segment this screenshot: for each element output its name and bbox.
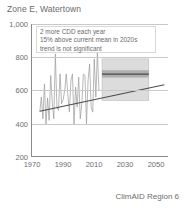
gridline-800 bbox=[32, 57, 168, 58]
y-axis-label-600: 600 bbox=[2, 86, 28, 95]
source-note: ClimAID Region 6 bbox=[115, 192, 179, 201]
annotation-line-3: trend is not significant bbox=[40, 45, 153, 53]
x-axis-label-1990: 1990 bbox=[48, 160, 78, 169]
projection-box-group bbox=[102, 59, 149, 101]
annotation-line-1: 2 more CDD each year bbox=[40, 28, 153, 36]
annotation-box: 2 more CDD each year 15% above current m… bbox=[36, 26, 156, 53]
x-axis-label-2010: 2010 bbox=[79, 160, 109, 169]
chart-title: Zone E, Watertown bbox=[7, 4, 81, 14]
annotation-line-2: 15% above current mean in 2020s bbox=[40, 36, 153, 44]
chart-container: Zone E, Watertown 1,000 800 600 400 200 … bbox=[0, 0, 187, 208]
observed-cdd-series bbox=[40, 52, 99, 124]
x-axis-label-2030: 2030 bbox=[110, 160, 140, 169]
gridline-600 bbox=[32, 90, 168, 91]
x-axis-label-2050: 2050 bbox=[141, 160, 171, 169]
projection-outer-band bbox=[102, 59, 149, 101]
y-axis-label-800: 800 bbox=[2, 53, 28, 62]
gridline-400 bbox=[32, 124, 168, 125]
y-axis-label-1000: 1,000 bbox=[2, 20, 28, 29]
y-axis-label-400: 400 bbox=[2, 120, 28, 129]
gridline-1000 bbox=[32, 24, 168, 25]
x-axis-label-1970: 1970 bbox=[17, 160, 47, 169]
